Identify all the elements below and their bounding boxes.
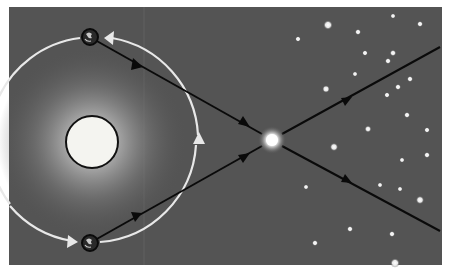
background-star [322,85,330,93]
background-star [389,231,395,237]
background-star [395,84,401,90]
background-star [407,76,413,82]
background-star [424,152,430,158]
sun [66,116,118,168]
nearby-star-core [266,134,278,146]
background-star [416,196,424,204]
background-star [424,127,430,133]
background-star [295,36,301,42]
background-star [362,50,368,56]
earth-icon-bottom [82,235,98,251]
background-star [384,92,390,98]
earth-icon-top [82,29,98,45]
background-star [417,21,423,27]
background-star [355,29,361,35]
background-star [323,20,333,30]
background-star [390,50,396,56]
background-star [377,182,382,187]
background-star [303,184,308,189]
background-star [312,240,318,246]
background-star [397,186,402,191]
background-star [390,13,395,18]
background-star [385,58,391,64]
background-star [390,258,400,268]
background-star [347,226,353,232]
background-star [330,143,338,151]
background-star [352,71,357,76]
background-star [404,112,410,118]
background-star [365,126,372,133]
background-star [399,157,404,162]
parallax-diagram [0,0,449,279]
